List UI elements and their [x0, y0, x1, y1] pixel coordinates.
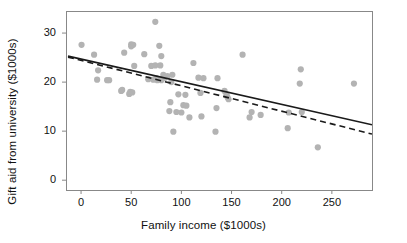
data-point: [95, 67, 101, 73]
data-point: [131, 63, 137, 69]
data-point: [198, 113, 204, 119]
plot-frame: [67, 12, 373, 191]
data-point: [175, 91, 181, 97]
data-point: [200, 75, 206, 81]
x-tick-label: 250: [312, 196, 352, 208]
data-point: [78, 42, 84, 48]
scatter-plot-figure: Family income ($1000s) Gift aid from uni…: [0, 0, 407, 243]
data-point: [94, 77, 100, 83]
x-tick-label: 50: [111, 196, 151, 208]
data-point: [157, 62, 163, 68]
data-point: [156, 43, 162, 49]
data-point: [182, 92, 188, 98]
data-point: [130, 42, 136, 48]
data-point: [169, 72, 175, 78]
data-point: [121, 50, 127, 56]
data-point: [190, 60, 196, 66]
x-tick-label: 0: [61, 196, 101, 208]
y-tick-label: 20: [26, 75, 56, 87]
data-point: [186, 114, 192, 120]
data-point: [258, 112, 264, 118]
data-point: [297, 80, 303, 86]
x-axis-title: Family income ($1000s): [0, 219, 407, 231]
data-point: [213, 105, 219, 111]
y-tick-label: 0: [26, 173, 56, 185]
data-point: [249, 109, 255, 115]
y-tick-label: 10: [26, 124, 56, 136]
data-point: [141, 51, 147, 57]
data-point: [212, 129, 218, 135]
data-point: [170, 129, 176, 135]
data-point: [152, 19, 158, 25]
data-point: [166, 108, 172, 114]
data-point: [315, 144, 321, 150]
data-point: [178, 109, 184, 115]
x-tick-label: 100: [161, 196, 201, 208]
x-tick-label: 150: [212, 196, 252, 208]
data-point: [106, 77, 112, 83]
data-point: [167, 99, 173, 105]
x-tick-label: 200: [262, 196, 302, 208]
alternate-fit-line: [68, 57, 372, 134]
data-point: [214, 75, 220, 81]
data-point: [119, 87, 125, 93]
data-point: [351, 80, 357, 86]
data-layer: [68, 19, 372, 151]
y-axis-title: Gift aid from university ($1000s): [4, 0, 20, 243]
data-point: [239, 52, 245, 58]
data-point: [247, 114, 253, 120]
data-point: [91, 52, 97, 58]
y-tick-label: 30: [26, 26, 56, 38]
data-point: [158, 53, 164, 59]
data-point: [183, 103, 189, 109]
data-point: [285, 125, 291, 131]
data-point: [298, 66, 304, 72]
least-squares-line: [68, 56, 372, 125]
data-point: [129, 89, 135, 95]
